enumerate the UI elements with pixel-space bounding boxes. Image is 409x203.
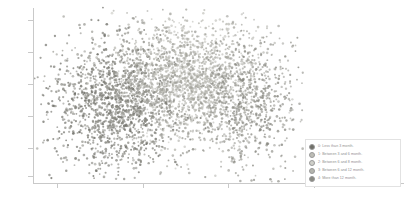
- x-axis-tick: [57, 183, 58, 188]
- y-axis-tick: [28, 52, 33, 53]
- y-axis-tick: [28, 148, 33, 149]
- y-axis-tick: [28, 176, 33, 177]
- legend-item[interactable]: 1: Between 3 and 6 month.: [309, 151, 397, 159]
- scatter-plot-figure: 0: Less than 3 month. 1: Between 3 and 6…: [0, 0, 409, 203]
- legend-marker-icon: [309, 152, 315, 158]
- legend-item-label: 1: Between 3 and 6 month.: [318, 153, 362, 157]
- y-axis-tick: [28, 116, 33, 117]
- y-axis-line: [33, 8, 34, 183]
- legend-item-label: 0: Less than 3 month.: [318, 145, 354, 149]
- y-axis-tick: [28, 20, 33, 21]
- x-axis-tick: [228, 183, 229, 188]
- legend-item-label: 3: Between 6 and 12 month.: [318, 169, 364, 173]
- legend-item[interactable]: 4: More than 12 month.: [309, 175, 397, 183]
- legend-marker-icon: [309, 176, 315, 182]
- legend-marker-icon: [309, 160, 315, 166]
- legend-item[interactable]: 0: Less than 3 month.: [309, 143, 397, 151]
- legend-item-label: 2: Between 6 and 8 month.: [318, 161, 362, 165]
- y-axis-tick: [28, 84, 33, 85]
- chart-legend: 0: Less than 3 month. 1: Between 3 and 6…: [305, 139, 401, 187]
- legend-item-label: 4: More than 12 month.: [318, 177, 356, 181]
- legend-item[interactable]: 2: Between 6 and 8 month.: [309, 159, 397, 167]
- x-axis-tick: [143, 183, 144, 188]
- legend-item[interactable]: 3: Between 6 and 12 month.: [309, 167, 397, 175]
- legend-marker-icon: [309, 144, 315, 150]
- legend-marker-icon: [309, 168, 315, 174]
